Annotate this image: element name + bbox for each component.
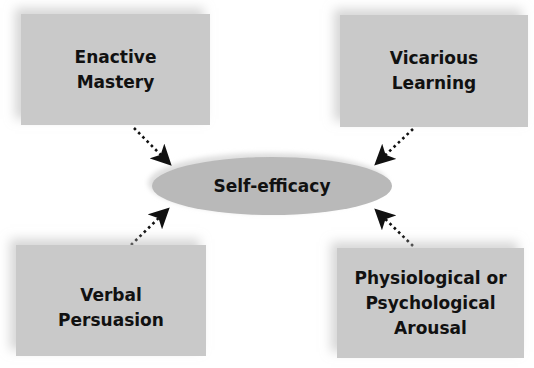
physiological-arousal-box: Physiological or Psychological Arousal: [337, 248, 524, 358]
vicarious-line-1: Vicarious: [390, 46, 478, 71]
vicarious-learning-box: Vicarious Learning: [340, 15, 528, 127]
physiological-line-1: Physiological or: [354, 266, 506, 291]
verbal-line-2: Persuasion: [58, 308, 164, 333]
arrow-physiological-to-center: [378, 212, 413, 246]
enactive-line-2: Mastery: [75, 70, 157, 95]
physiological-line-2: Psychological: [354, 291, 506, 316]
physiological-line-3: Arousal: [354, 316, 506, 341]
arrow-verbal-to-center: [131, 211, 166, 245]
verbal-line-1: Verbal: [58, 283, 164, 308]
self-efficacy-label: Self-efficacy: [152, 156, 392, 216]
enactive-mastery-box: Enactive Mastery: [21, 14, 210, 125]
verbal-persuasion-box: Verbal Persuasion: [16, 245, 206, 356]
vicarious-line-2: Learning: [390, 71, 478, 96]
enactive-line-1: Enactive: [75, 45, 157, 70]
